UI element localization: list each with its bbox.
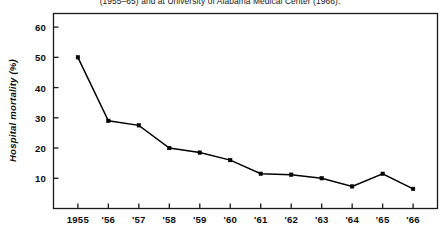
- y-axis-ticks: [54, 27, 59, 178]
- x-tick-label: '61: [254, 214, 268, 225]
- x-tick-label: '57: [132, 214, 146, 225]
- x-tick-label: '66: [406, 214, 420, 225]
- x-tick-label: 1955: [67, 214, 89, 225]
- y-tick-label: 40: [14, 82, 46, 93]
- data-line-series: [78, 57, 413, 189]
- y-tick-label: 20: [14, 143, 46, 154]
- x-tick-label: '56: [102, 214, 116, 225]
- y-tick-label: 10: [14, 173, 46, 184]
- y-tick-label: 50: [14, 52, 46, 63]
- figure: (1955–65) and at University of Alabama M…: [0, 0, 440, 231]
- x-tick-label: '63: [315, 214, 329, 225]
- y-tick-label: 60: [14, 22, 46, 33]
- x-tick-label: '60: [223, 214, 237, 225]
- x-axis-ticks: [78, 204, 413, 209]
- x-tick-label: '58: [163, 214, 177, 225]
- plot-canvas: [0, 0, 440, 231]
- x-tick-label: '65: [376, 214, 390, 225]
- x-tick-label: '64: [345, 214, 359, 225]
- y-tick-label: 30: [14, 112, 46, 123]
- plot-frame: [54, 14, 438, 209]
- x-tick-label: '62: [284, 214, 298, 225]
- x-tick-label: '59: [193, 214, 207, 225]
